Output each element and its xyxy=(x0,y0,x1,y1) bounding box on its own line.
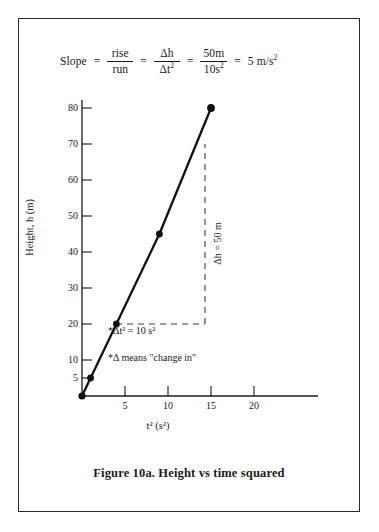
annotation-delta-meaning: *Δ means "change in" xyxy=(108,352,196,363)
figure-caption: Figure 10a. Height vs time squared xyxy=(18,466,360,481)
annotation-delta-t-squared: *Δt² = 10 s² xyxy=(108,325,155,336)
x-tick-label: 15 xyxy=(199,401,223,411)
fraction-denominator-run: run xyxy=(109,62,131,76)
formula-equals-2: = xyxy=(140,55,147,67)
y-tick-label: 5 xyxy=(52,373,78,383)
fraction-delta-h-delta-t2: Δh Δt2 xyxy=(154,47,180,76)
y-axis-title: Height, h (m) xyxy=(24,183,35,273)
fraction-numerator-delta-h: Δh xyxy=(157,47,176,61)
x-tick-label: 5 xyxy=(113,401,137,411)
figure-border xyxy=(18,18,360,512)
formula-equals-3: = xyxy=(187,55,194,67)
fraction-denominator-10s2: 10s2 xyxy=(201,62,227,76)
y-tick-label: 50 xyxy=(52,211,78,221)
fraction-50m-10s2: 50m 10s2 xyxy=(200,47,227,76)
x-axis-title: t² (s²) xyxy=(118,420,198,431)
formula-equals-1: = xyxy=(94,55,101,67)
fraction-numerator-50m: 50m xyxy=(200,47,227,61)
formula-equals-4: = xyxy=(234,55,241,67)
y-tick-label: 40 xyxy=(52,247,78,257)
fraction-denominator-delta-t2: Δt2 xyxy=(157,62,178,76)
x-tick-label: 20 xyxy=(242,401,266,411)
y-tick-label: 30 xyxy=(52,283,78,293)
formula-result: 5 m/s2 xyxy=(248,55,278,67)
x-tick-label: 10 xyxy=(156,401,180,411)
y-tick-label: 60 xyxy=(52,175,78,185)
slope-formula: Slope = rise run = Δh Δt2 = 50m 10s2 = 5… xyxy=(60,38,330,84)
y-tick-label: 10 xyxy=(52,355,78,365)
y-tick-label: 20 xyxy=(52,319,78,329)
annotation-delta-h: Δh = 50 m xyxy=(212,199,223,289)
fraction-numerator-rise: rise xyxy=(109,47,132,61)
y-tick-label: 80 xyxy=(52,103,78,113)
y-tick-label: 70 xyxy=(52,139,78,149)
formula-lead: Slope xyxy=(60,55,87,67)
figure-page: Slope = rise run = Δh Δt2 = 50m 10s2 = 5… xyxy=(0,0,379,532)
fraction-rise-run: rise run xyxy=(107,47,133,76)
